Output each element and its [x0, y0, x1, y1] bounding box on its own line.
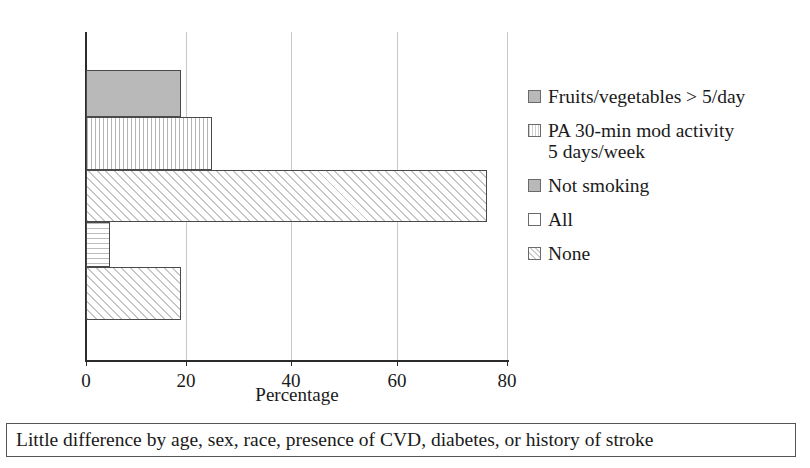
x-tick-40 — [291, 360, 292, 366]
white-swatch-icon — [528, 213, 541, 226]
legend-item-label: Not smoking — [548, 175, 649, 196]
x-axis-line — [85, 360, 509, 362]
x-axis-title: Percentage — [86, 384, 508, 406]
legend-item-fruits-vegetables: Fruits/vegetables > 5/day — [528, 86, 808, 107]
legend-item-none: None — [528, 243, 808, 264]
bar-all — [86, 222, 110, 267]
bar-physical-activity — [86, 117, 212, 170]
bar-none — [86, 267, 181, 320]
legend-item-physical-activity: PA 30-min mod activity 5 days/week — [528, 120, 808, 162]
caption-box: Little difference by age, sex, race, pre… — [6, 423, 796, 457]
x-tick-20 — [186, 360, 187, 366]
gridline-80 — [507, 32, 508, 360]
bar-not-smoking — [86, 170, 487, 222]
legend-item-label: All — [548, 209, 573, 230]
gray-swatch-icon — [528, 179, 541, 192]
x-tick-60 — [397, 360, 398, 366]
bar-fruits-vegetables — [86, 70, 181, 117]
gray-swatch-icon — [528, 90, 541, 103]
x-tick-0 — [86, 360, 87, 366]
legend-item-all: All — [528, 209, 808, 230]
legend-item-label: Fruits/vegetables > 5/day — [548, 86, 745, 107]
legend: Fruits/vegetables > 5/day PA 30-min mod … — [528, 86, 808, 277]
caption-text: Little difference by age, sex, race, pre… — [7, 429, 653, 451]
plot-area: 0 20 40 60 80 — [86, 32, 508, 360]
legend-item-label: PA 30-min mod activity 5 days/week — [548, 120, 734, 162]
diagonal-hatch-swatch-icon — [528, 247, 541, 260]
x-tick-80 — [507, 360, 508, 366]
figure: Self-reported behavior 0 20 40 60 80 Per… — [0, 0, 810, 468]
vertical-hatch-swatch-icon — [528, 124, 541, 137]
legend-item-not-smoking: Not smoking — [528, 175, 808, 196]
legend-item-label: None — [548, 243, 590, 264]
